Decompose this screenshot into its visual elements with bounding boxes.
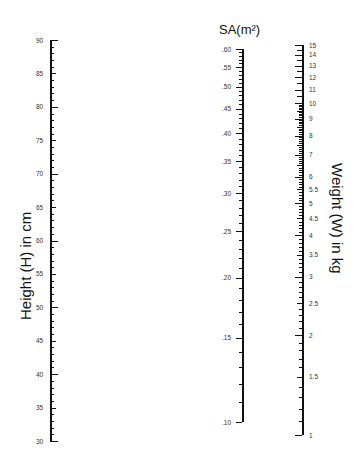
- weight-tick: [299, 182, 302, 183]
- sa-tick: [239, 95, 242, 96]
- height-tick: [50, 73, 56, 74]
- height-tick: [50, 241, 58, 242]
- height-tick-label: 50: [36, 304, 43, 311]
- weight-tick: [299, 215, 302, 216]
- sa-tick: [239, 128, 242, 129]
- weight-tick: [299, 309, 302, 310]
- sa-tick: [236, 109, 242, 110]
- weight-tick: [299, 421, 302, 422]
- weight-tick: [299, 239, 302, 240]
- weight-tick: [299, 143, 302, 144]
- weight-tick: [297, 71, 302, 72]
- height-tick: [50, 287, 54, 288]
- weight-tick: [299, 251, 302, 252]
- sa-tick: [239, 200, 242, 201]
- weight-tick: [297, 50, 302, 51]
- sa-tick: [239, 352, 242, 353]
- sa-tick: [236, 87, 242, 88]
- weight-tick: [299, 105, 302, 106]
- weight-tick: [299, 328, 302, 329]
- height-tick: [50, 254, 54, 255]
- weight-tick: [299, 109, 302, 110]
- weight-tick: [299, 200, 302, 201]
- height-tick: [50, 281, 54, 282]
- weight-tick: [299, 206, 302, 207]
- height-tick-label: 90: [36, 37, 43, 44]
- height-tick: [50, 40, 58, 41]
- sa-tick: [239, 79, 242, 80]
- weight-tick: [299, 151, 302, 152]
- weight-axis-line: [302, 45, 304, 435]
- weight-tick: [299, 147, 302, 148]
- weight-tick: [299, 263, 302, 264]
- weight-tick: [299, 122, 302, 123]
- sa-axis-line: [242, 49, 244, 422]
- weight-tick: [299, 129, 302, 130]
- sa-tick: [236, 193, 242, 194]
- sa-tick-label: .15: [222, 334, 231, 341]
- weight-tick: [299, 120, 302, 121]
- height-tick: [50, 347, 54, 348]
- weight-tick: [299, 168, 302, 169]
- height-tick: [50, 388, 54, 389]
- weight-tick: [299, 198, 302, 199]
- height-tick: [50, 167, 54, 168]
- height-tick: [50, 421, 54, 422]
- sa-tick: [239, 215, 242, 216]
- weight-tick-label: 13: [309, 62, 316, 69]
- weight-tick-label: 4.5: [309, 215, 318, 222]
- sa-tick-label: .60: [222, 46, 231, 53]
- height-tick: [50, 441, 58, 442]
- height-tick: [50, 321, 54, 322]
- sa-tick: [239, 104, 242, 105]
- weight-tick: [295, 119, 302, 120]
- sa-tick: [239, 208, 242, 209]
- weight-tick: [299, 209, 302, 210]
- sa-tick: [239, 402, 242, 403]
- weight-tick-label: 5: [309, 200, 313, 207]
- weight-tick-label: 9: [309, 115, 313, 122]
- weight-tick: [299, 287, 302, 288]
- weight-tick-label: 3: [309, 273, 313, 280]
- weight-tick: [299, 343, 302, 344]
- sa-tick: [239, 367, 242, 368]
- weight-tick: [297, 83, 302, 84]
- height-tick: [50, 140, 56, 141]
- weight-tick: [299, 175, 302, 176]
- height-tick: [50, 100, 54, 101]
- height-tick: [50, 220, 54, 221]
- sa-tick: [239, 139, 242, 140]
- height-tick: [50, 214, 54, 215]
- weight-tick: [299, 292, 302, 293]
- height-tick: [50, 114, 54, 115]
- weight-tick: [295, 90, 302, 91]
- height-tick: [50, 127, 54, 128]
- weight-tick: [299, 163, 302, 164]
- sa-tick-label: .55: [222, 64, 231, 71]
- weight-tick: [297, 145, 302, 146]
- height-tick: [50, 301, 54, 302]
- height-tick: [50, 194, 54, 195]
- weight-tick: [299, 192, 302, 193]
- height-tick: [50, 207, 56, 208]
- weight-tick-label: 4: [309, 232, 313, 239]
- sa-tick: [239, 223, 242, 224]
- weight-tick: [299, 134, 302, 135]
- sa-tick: [239, 240, 242, 241]
- weight-tick: [299, 117, 302, 118]
- sa-tick: [239, 180, 242, 181]
- sa-tick: [239, 75, 242, 76]
- sa-tick-label: .40: [222, 130, 231, 137]
- height-tick: [50, 434, 54, 435]
- height-tick-label: 80: [36, 103, 43, 110]
- weight-tick-label: 10: [309, 100, 316, 107]
- weight-tick: [299, 195, 302, 196]
- height-tick: [50, 414, 54, 415]
- height-tick: [50, 227, 54, 228]
- weight-tick: [299, 106, 302, 107]
- height-tick: [50, 294, 54, 295]
- height-tick: [50, 174, 58, 175]
- weight-tick-label: 1.5: [309, 373, 318, 380]
- weight-tick-label: 3.5: [309, 251, 318, 258]
- sa-tick: [239, 63, 242, 64]
